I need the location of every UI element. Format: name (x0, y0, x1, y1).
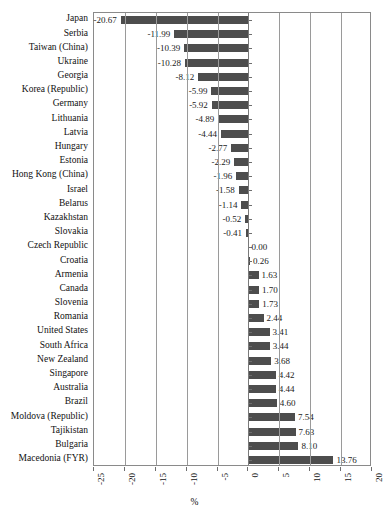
bar (248, 385, 275, 393)
bar (248, 413, 295, 421)
bar (221, 130, 248, 138)
bar-value-label: 3.41 (273, 328, 289, 337)
category-label: New Zealand (0, 353, 88, 367)
row-tickmark (249, 417, 252, 418)
bar-value-label: -1.58 (216, 186, 235, 195)
bar-value-label: 3.68 (274, 356, 290, 365)
x-tick-label: 0 (251, 473, 260, 478)
row-tickmark (249, 460, 252, 461)
gridline--15 (156, 13, 157, 465)
bar-row: 1.63 (94, 268, 370, 282)
x-tick-label: 5 (282, 473, 291, 478)
x-tick-label: -15 (159, 473, 168, 485)
category-label: Moldova (Republic) (0, 409, 88, 423)
category-label: Japan (0, 12, 88, 26)
bar-row: 4.42 (94, 368, 370, 382)
bar-value-label: -10.28 (158, 58, 181, 67)
x-tick (217, 467, 218, 471)
bar-value-label: -0.52 (222, 214, 241, 223)
bar-row: -8.12 (94, 70, 370, 84)
bar-row: -4.89 (94, 112, 370, 126)
x-tick (371, 467, 372, 471)
row-tickmark (249, 318, 252, 319)
category-label: Australia (0, 381, 88, 395)
row-tickmark (249, 304, 252, 305)
category-label: Latvia (0, 126, 88, 140)
row-tickmark (249, 48, 252, 49)
x-tick-label: 20 (375, 473, 384, 482)
bar-row: 7.63 (94, 424, 370, 438)
bar-row: 4.60 (94, 396, 370, 410)
x-tick (309, 467, 310, 471)
bar-value-label: 4.42 (279, 370, 295, 379)
gridline--5 (218, 13, 219, 465)
row-tickmark (249, 20, 252, 21)
bar-row: 8.10 (94, 439, 370, 453)
bar-row: 0.26 (94, 254, 370, 268)
category-label: Korea (Republic) (0, 83, 88, 97)
bar (234, 158, 248, 166)
bar-value-label: -2.29 (212, 157, 231, 166)
row-tickmark (249, 432, 252, 433)
chart-title (0, 0, 389, 7)
bar-row: 4.44 (94, 382, 370, 396)
bar-row: -2.29 (94, 155, 370, 169)
row-tickmark (249, 219, 252, 220)
bar-row: 3.68 (94, 354, 370, 368)
category-label: Tajikistan (0, 423, 88, 437)
x-tick-label: -20 (128, 473, 137, 485)
bar-row: -1.14 (94, 197, 370, 211)
bar-value-label: -4.89 (196, 115, 215, 124)
category-label: Germany (0, 97, 88, 111)
category-axis-labels: JapanSerbiaTaiwan (China)UkraineGeorgiaK… (0, 12, 88, 466)
bar (248, 442, 298, 450)
row-tickmark (249, 290, 252, 291)
row-tickmark (249, 261, 252, 262)
category-label: Belarus (0, 196, 88, 210)
bar-value-label: -5.99 (189, 87, 208, 96)
bar-row: -10.28 (94, 56, 370, 70)
category-label: Slovenia (0, 296, 88, 310)
x-tick-label: -10 (190, 473, 199, 485)
row-tickmark (249, 275, 252, 276)
category-label: South Africa (0, 338, 88, 352)
bar-row: 13.76 (94, 453, 370, 467)
category-label: Canada (0, 282, 88, 296)
x-tick-label: 15 (344, 473, 353, 482)
gridline-15 (341, 13, 342, 465)
x-tick (155, 467, 156, 471)
chart-page: JapanSerbiaTaiwan (China)UkraineGeorgiaK… (0, 0, 389, 514)
row-tickmark (249, 233, 252, 234)
bar-row: 7.54 (94, 410, 370, 424)
category-label: Macedonia (FYR) (0, 452, 88, 466)
bar-value-label: -11.99 (147, 30, 170, 39)
bar-row: -1.58 (94, 183, 370, 197)
bar-value-label: -4.44 (198, 129, 217, 138)
bar-value-label: -1.14 (219, 200, 238, 209)
bar-value-label: -5.92 (189, 101, 208, 110)
row-tickmark (249, 446, 252, 447)
x-tick (93, 467, 94, 471)
bar (198, 73, 248, 81)
row-tickmark (249, 77, 252, 78)
bar-value-label: 7.54 (298, 413, 314, 422)
bar-value-label: 1.73 (262, 299, 278, 308)
bar-row: -11.99 (94, 27, 370, 41)
row-tickmark (249, 346, 252, 347)
x-tick-label: 10 (313, 473, 322, 482)
row-tickmark (249, 375, 252, 376)
row-tickmark (249, 332, 252, 333)
category-label: Bulgaria (0, 438, 88, 452)
bar (236, 172, 248, 180)
gridline-10 (310, 13, 311, 465)
category-label: Ukraine (0, 55, 88, 69)
row-tickmark (249, 105, 252, 106)
bar-value-label: 3.44 (273, 342, 289, 351)
row-tickmark (249, 403, 252, 404)
bar (184, 44, 248, 52)
bar (218, 115, 248, 123)
x-tick (247, 467, 248, 471)
x-tick (124, 467, 125, 471)
category-label: Kazakhstan (0, 211, 88, 225)
bar-row: 2.44 (94, 311, 370, 325)
